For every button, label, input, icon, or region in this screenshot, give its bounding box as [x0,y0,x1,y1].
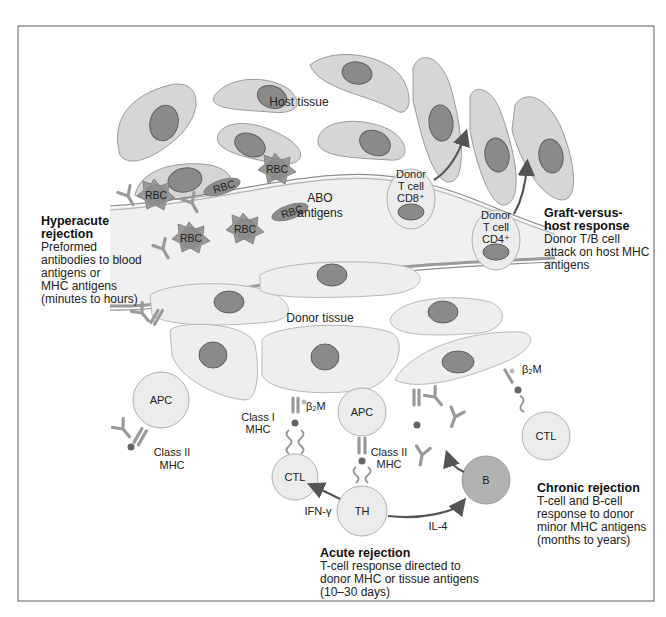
class2-mhc-middle-line1: Class II [371,446,408,458]
donor-tissue-label: Donor tissue [286,311,354,325]
svg-text:T cell: T cell [483,221,509,233]
donor-t-cell-cd4: Donor T cell CD4⁺ [472,209,520,270]
class2-mhc-middle-line2: MHC [376,458,401,470]
svg-text:T-cell and B-cell: T-cell and B-cell [537,494,622,508]
th-cell: TH [337,486,387,536]
rbc-label: RBC [266,163,289,175]
apc-cell-middle: APC [338,388,386,436]
donor-t-cell-cd8: Donor T cell CD8⁺ [387,168,435,229]
svg-text:B: B [482,474,489,486]
svg-text:(months to years): (months to years) [537,533,630,547]
rbc-label: RBC [234,223,257,235]
svg-text:Donor T/B cell: Donor T/B cell [544,232,620,246]
svg-text:CTL: CTL [536,430,557,442]
svg-text:response to donor: response to donor [537,507,634,521]
svg-text:(minutes to hours): (minutes to hours) [41,292,138,306]
svg-text:MHC antigens: MHC antigens [41,279,117,293]
host-tissue-label: Host tissue [269,95,329,109]
b2m-label-right: β₂M [522,363,542,375]
b2m-label: β₂M [306,400,326,412]
apc-cell: APC [133,372,189,428]
svg-text:donor MHC or tissue antigens: donor MHC or tissue antigens [320,572,479,586]
svg-text:CTL: CTL [285,471,306,483]
svg-text:antigens or: antigens or [41,266,100,280]
svg-text:APC: APC [150,394,173,406]
svg-text:APC: APC [351,406,374,418]
class1-mhc-line1: Class I [241,411,275,423]
svg-text:Chronic rejection: Chronic rejection [537,481,640,495]
class2-mhc-left-line1: Class II [154,446,191,458]
svg-text:Preformed: Preformed [41,240,97,254]
svg-text:attack on host MHC: attack on host MHC [544,245,650,259]
svg-text:Graft-versus-: Graft-versus- [544,206,623,220]
chronic-rejection-annotation: Chronic rejection T-cell and B-cell resp… [537,481,646,547]
svg-text:TH: TH [355,505,370,517]
ctl-cell-acute: CTL [272,454,318,500]
ifn-gamma-label: IFN-γ [305,505,332,517]
svg-text:rejection: rejection [41,227,93,241]
rbc-label: RBC [145,189,168,201]
diagram-canvas: RBC RBC RBC RBC RBC RBC ABO antigens Hos… [0,0,666,617]
svg-text:minor MHC antigens: minor MHC antigens [537,520,646,534]
class2-mhc-left-line2: MHC [159,459,184,471]
b-cell: B [462,456,510,504]
abo-label-line2: antigens [297,206,342,220]
svg-text:T-cell response directed to: T-cell response directed to [320,559,461,573]
abo-label-line1: ABO [307,191,332,205]
antigen-peptide [128,444,135,451]
svg-text:Acute rejection: Acute rejection [320,546,410,560]
svg-text:host response: host response [544,219,629,233]
svg-text:antigens: antigens [544,258,589,272]
svg-text:T cell: T cell [398,180,424,192]
svg-text:(10–30 days): (10–30 days) [320,585,390,599]
svg-text:Donor: Donor [396,168,426,180]
svg-text:Hyperacute: Hyperacute [41,214,109,228]
svg-text:CD8⁺: CD8⁺ [397,192,425,204]
svg-text:Donor: Donor [481,209,511,221]
class1-mhc-line2: MHC [245,423,270,435]
il4-label: IL-4 [429,520,448,532]
ctl-cell-chronic: CTL [522,412,570,460]
svg-text:antibodies to blood: antibodies to blood [41,253,142,267]
transplant-rejection-diagram: RBC RBC RBC RBC RBC RBC ABO antigens Hos… [0,0,666,617]
rbc-label: RBC [180,232,203,244]
svg-text:CD4⁺: CD4⁺ [482,233,510,245]
